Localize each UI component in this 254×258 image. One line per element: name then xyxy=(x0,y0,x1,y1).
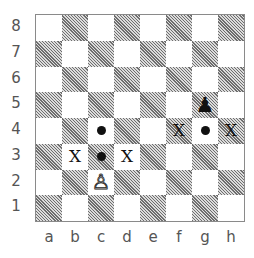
square-g8 xyxy=(192,15,218,41)
square-b5 xyxy=(62,92,88,118)
square-a7 xyxy=(36,41,62,67)
square-c2: ♙ xyxy=(88,170,114,196)
square-b7 xyxy=(62,41,88,67)
square-c1 xyxy=(88,195,114,221)
file-label-a: a xyxy=(36,230,62,245)
square-a4 xyxy=(36,118,62,144)
file-label-h: h xyxy=(218,230,244,245)
dot-marker-icon xyxy=(201,126,210,135)
square-d3: X xyxy=(114,144,140,170)
square-d7 xyxy=(114,41,140,67)
square-h4: X xyxy=(218,118,244,144)
square-e4 xyxy=(140,118,166,144)
square-d5 xyxy=(114,92,140,118)
square-c6 xyxy=(88,67,114,93)
square-h8 xyxy=(218,15,244,41)
square-d4 xyxy=(114,118,140,144)
dot-marker-icon xyxy=(97,126,106,135)
square-e3 xyxy=(140,144,166,170)
square-a5 xyxy=(36,92,62,118)
square-g7 xyxy=(192,41,218,67)
file-label-g: g xyxy=(192,230,218,245)
rank-label-5: 5 xyxy=(8,96,24,111)
square-h1 xyxy=(218,195,244,221)
x-marker: X xyxy=(121,148,133,165)
square-h5 xyxy=(218,92,244,118)
square-a3 xyxy=(36,144,62,170)
rank-label-8: 8 xyxy=(8,19,24,34)
square-d1 xyxy=(114,195,140,221)
square-g1 xyxy=(192,195,218,221)
square-c3 xyxy=(88,144,114,170)
file-label-c: c xyxy=(88,230,114,245)
square-b1 xyxy=(62,195,88,221)
square-c4 xyxy=(88,118,114,144)
square-e7 xyxy=(140,41,166,67)
file-label-d: d xyxy=(114,230,140,245)
chess-board: ♟XXXX♙ xyxy=(35,14,245,222)
square-h3 xyxy=(218,144,244,170)
square-g3 xyxy=(192,144,218,170)
square-d6 xyxy=(114,67,140,93)
black-pawn-icon: ♟ xyxy=(196,95,215,116)
square-g5: ♟ xyxy=(192,92,218,118)
rank-label-7: 7 xyxy=(8,45,24,60)
square-b3: X xyxy=(62,144,88,170)
square-f7 xyxy=(166,41,192,67)
square-f8 xyxy=(166,15,192,41)
rank-label-4: 4 xyxy=(8,122,24,137)
square-b6 xyxy=(62,67,88,93)
x-marker: X xyxy=(69,148,81,165)
x-marker: X xyxy=(173,122,185,139)
square-h6 xyxy=(218,67,244,93)
white-pawn-icon: ♙ xyxy=(92,172,111,193)
square-f6 xyxy=(166,67,192,93)
x-marker: X xyxy=(225,122,237,139)
dot-marker-icon xyxy=(97,152,106,161)
square-a6 xyxy=(36,67,62,93)
square-a8 xyxy=(36,15,62,41)
square-e8 xyxy=(140,15,166,41)
square-d8 xyxy=(114,15,140,41)
square-f3 xyxy=(166,144,192,170)
square-c8 xyxy=(88,15,114,41)
square-f4: X xyxy=(166,118,192,144)
square-a2 xyxy=(36,170,62,196)
square-f2 xyxy=(166,170,192,196)
square-d2 xyxy=(114,170,140,196)
square-e5 xyxy=(140,92,166,118)
square-h7 xyxy=(218,41,244,67)
rank-label-6: 6 xyxy=(8,71,24,86)
rank-label-2: 2 xyxy=(8,174,24,189)
square-e2 xyxy=(140,170,166,196)
square-g4 xyxy=(192,118,218,144)
square-e1 xyxy=(140,195,166,221)
square-b4 xyxy=(62,118,88,144)
square-b8 xyxy=(62,15,88,41)
file-label-f: f xyxy=(166,230,192,245)
square-e6 xyxy=(140,67,166,93)
square-f5 xyxy=(166,92,192,118)
square-h2 xyxy=(218,170,244,196)
square-g2 xyxy=(192,170,218,196)
square-c5 xyxy=(88,92,114,118)
rank-label-1: 1 xyxy=(8,199,24,214)
file-label-e: e xyxy=(140,230,166,245)
square-b2 xyxy=(62,170,88,196)
square-g6 xyxy=(192,67,218,93)
file-label-b: b xyxy=(62,230,88,245)
square-f1 xyxy=(166,195,192,221)
square-c7 xyxy=(88,41,114,67)
square-a1 xyxy=(36,195,62,221)
rank-label-3: 3 xyxy=(8,148,24,163)
